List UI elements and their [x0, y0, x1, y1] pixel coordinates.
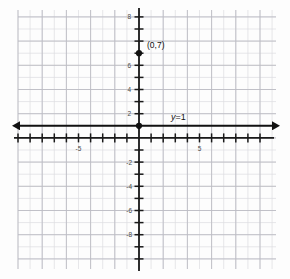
line-equation-label: y=1: [170, 112, 186, 122]
y-tick-label-4: 4: [127, 86, 131, 93]
y-tick-label-2: 2: [127, 110, 131, 117]
point-label-0-7: (0,7): [147, 40, 165, 50]
x-tick-label-neg-5: -5: [76, 145, 82, 152]
y-tick-label-8: 8: [127, 13, 131, 20]
y-tick-label-neg-8: -8: [126, 231, 132, 238]
y-tick-label-neg-6: -6: [126, 207, 132, 214]
line-equation-rest: =1: [176, 112, 186, 122]
coordinate-plane-figure: 8 6 4 2 -2 -4 -6 -8 -5 5 (0,7) y=1: [0, 0, 290, 279]
point-0-1: [136, 123, 142, 129]
plot-background: [0, 0, 290, 279]
point-0-7: [136, 50, 142, 56]
y-tick-label-neg-2: -2: [126, 159, 132, 166]
y-tick-label-6: 6: [127, 62, 131, 69]
x-tick-label-5: 5: [198, 145, 202, 152]
coordinate-plane-svg: 8 6 4 2 -2 -4 -6 -8 -5 5 (0,7) y=1: [0, 0, 290, 279]
y-tick-label-neg-4: -4: [126, 183, 132, 190]
